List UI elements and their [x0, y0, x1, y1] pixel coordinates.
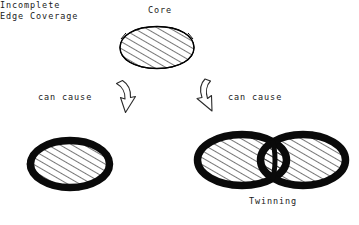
twinning-shape — [192, 128, 355, 192]
arrow-left-icon — [117, 81, 136, 113]
incomplete-edge-coverage-shape — [25, 134, 117, 196]
diagram-canvas: Core can cause can cause Incomplete Edge… — [0, 0, 359, 225]
can-cause-left-label: can cause — [38, 92, 92, 103]
diagram-artwork — [0, 0, 359, 225]
core-label: Core — [148, 5, 172, 16]
twinning-label: Twinning — [249, 196, 297, 207]
arrow-right-icon — [197, 79, 212, 111]
core-shape — [112, 20, 204, 78]
can-cause-right-label: can cause — [228, 92, 282, 103]
